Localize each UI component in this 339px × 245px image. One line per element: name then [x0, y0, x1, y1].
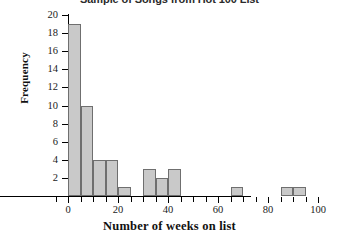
x-tick-minor-70 — [243, 197, 244, 202]
histogram-bar — [281, 187, 294, 196]
x-tick-minor-30 — [143, 197, 144, 202]
x-tick-100 — [318, 197, 319, 203]
histogram-bar — [81, 106, 94, 197]
x-tick-60 — [218, 197, 219, 203]
histogram-figure: Sample of Songs from Hot 100 List Freque… — [0, 0, 339, 245]
histogram-bar — [156, 178, 169, 196]
histogram-bar — [143, 169, 156, 196]
histogram-bar — [93, 160, 106, 196]
y-tick-label-18: 18 — [18, 28, 58, 38]
x-tick-label-100: 100 — [303, 204, 333, 215]
x-tick-minor-65 — [231, 197, 232, 202]
y-tick-label-10: 10 — [18, 101, 58, 111]
x-tick-minor--5 — [56, 197, 57, 202]
histogram-bar — [68, 24, 81, 196]
x-tick-minor-15 — [106, 197, 107, 202]
y-tick-label-20: 20 — [18, 10, 58, 20]
y-tick-label-16: 16 — [18, 46, 58, 56]
plot-area — [68, 15, 318, 196]
x-tick-0 — [68, 197, 69, 203]
x-tick-minor-50 — [193, 197, 194, 202]
x-tick-minor-85 — [281, 197, 282, 202]
x-tick-minor-45 — [181, 197, 182, 202]
x-tick-80 — [268, 197, 269, 203]
x-tick-minor-35 — [156, 197, 157, 202]
x-tick-minor-55 — [206, 197, 207, 202]
y-tick-label-8: 8 — [18, 119, 58, 129]
x-axis-line — [0, 196, 251, 197]
x-tick-minor-5 — [81, 197, 82, 202]
histogram-bar — [168, 169, 181, 196]
histogram-bar — [106, 160, 119, 196]
histogram-bar — [118, 187, 131, 196]
x-axis-title: Number of weeks on list — [0, 219, 339, 234]
x-tick-label-40: 40 — [153, 204, 183, 215]
x-tick-minor-10 — [93, 197, 94, 202]
x-tick-label-0: 0 — [53, 204, 83, 215]
x-tick-label-60: 60 — [203, 204, 233, 215]
y-tick-label-6: 6 — [18, 137, 58, 147]
x-tick-minor-25 — [131, 197, 132, 202]
x-tick-label-80: 80 — [253, 204, 283, 215]
x-tick-minor-95 — [306, 197, 307, 202]
x-tick-label-20: 20 — [103, 204, 133, 215]
histogram-bar — [231, 187, 244, 196]
y-tick-label-2: 2 — [18, 173, 58, 183]
y-tick-label-14: 14 — [18, 64, 58, 74]
chart-title: Sample of Songs from Hot 100 List — [0, 0, 339, 5]
histogram-bar — [293, 187, 306, 196]
x-tick-20 — [118, 197, 119, 203]
y-tick-label-4: 4 — [18, 155, 58, 165]
x-tick-minor-75 — [256, 197, 257, 202]
x-tick-40 — [168, 197, 169, 203]
y-tick-label-12: 12 — [18, 82, 58, 92]
x-tick-minor-90 — [293, 197, 294, 202]
